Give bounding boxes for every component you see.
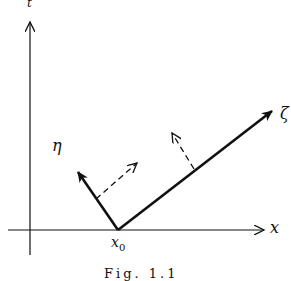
origin-label-main: x — [111, 234, 119, 250]
eta-arrow — [78, 172, 118, 230]
origin-label: x0 — [111, 234, 125, 253]
zeta-label: ζ — [280, 104, 289, 123]
zeta-arrow — [118, 111, 272, 230]
eta-label: η — [52, 136, 62, 155]
figure-caption: Fig. 1.1 — [104, 266, 178, 281]
dashed-normal-arrow-eta — [96, 163, 137, 199]
origin-label-sub: 0 — [119, 242, 125, 253]
dashed-normal-arrow-zeta — [172, 133, 194, 169]
horizontal-axis-label: x — [270, 218, 279, 237]
vertical-axis-label: t — [27, 0, 32, 10]
